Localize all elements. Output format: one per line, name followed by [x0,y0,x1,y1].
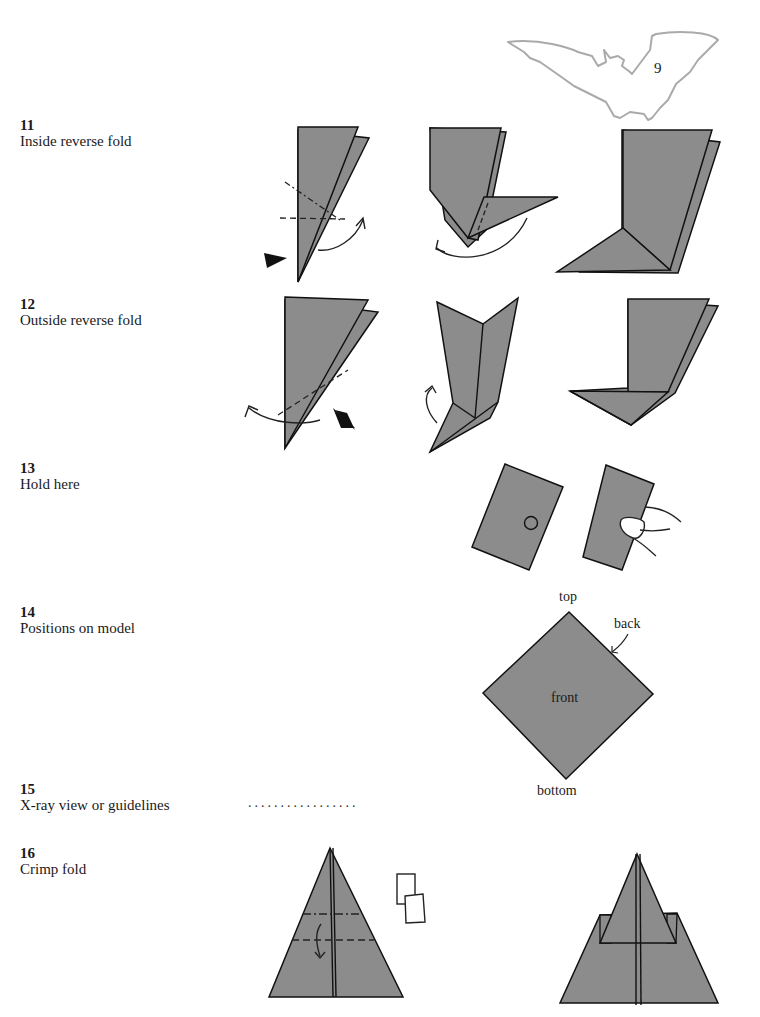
crimp-fold-diagram-1 [269,848,425,997]
step-label: Hold here [20,476,80,492]
hold-here-diagram-1 [472,464,563,570]
step-number: 16 [20,846,86,861]
hold-here-diagram-2 [583,465,681,570]
step-number: 15 [20,782,170,797]
step-16: 16 Crimp fold [20,846,86,877]
inside-reverse-fold-diagram-2 [430,128,558,257]
step-label: Crimp fold [20,861,86,877]
step-11: 11 Inside reverse fold [20,118,132,149]
crimp-fold-diagram-2 [560,854,718,1005]
label-top: top [559,589,577,605]
step-number: 14 [20,605,135,620]
label-front: front [551,690,578,706]
step-label: X-ray view or guidelines [20,797,170,813]
outside-reverse-fold-diagram-3 [570,299,718,425]
page-number: 9 [654,60,662,77]
step-15: 15 X-ray view or guidelines [20,782,170,813]
inside-reverse-fold-diagram-1 [264,127,369,282]
step-14: 14 Positions on model [20,605,135,636]
outside-reverse-fold-diagram-1 [245,297,378,448]
step-label: Outside reverse fold [20,312,142,328]
step-label: Positions on model [20,620,135,636]
step-number: 11 [20,118,132,133]
step-13: 13 Hold here [20,461,80,492]
label-back: back [614,616,640,632]
step-label: Inside reverse fold [20,133,132,149]
step-number: 12 [20,297,142,312]
step-number: 13 [20,461,80,476]
xray-dotted-line-symbol: ................. [248,795,359,811]
bat-silhouette-icon [0,0,760,1017]
outside-reverse-fold-diagram-2 [425,298,518,452]
inside-reverse-fold-diagram-3 [557,130,720,273]
label-bottom: bottom [537,783,577,799]
step-12: 12 Outside reverse fold [20,297,142,328]
